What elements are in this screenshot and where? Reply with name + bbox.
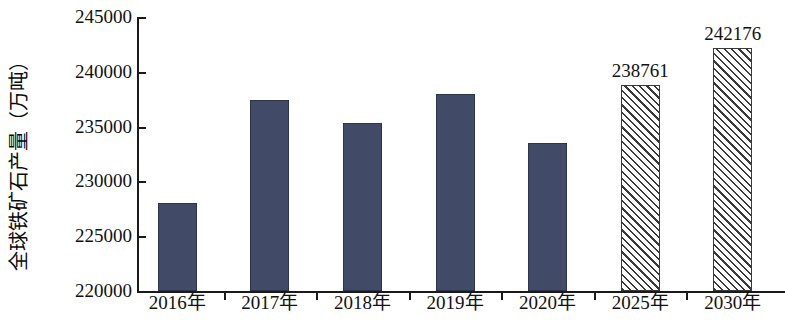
y-axis-tick-mark <box>137 181 146 183</box>
bar <box>158 203 197 291</box>
x-axis-tick-mark <box>316 291 318 300</box>
x-axis-tick-mark <box>501 291 503 300</box>
y-axis-tick-mark <box>137 291 146 293</box>
y-axis-tick-label: 245000 <box>48 7 132 26</box>
y-axis-tick-label: 230000 <box>48 171 132 190</box>
y-axis-tick-mark <box>137 236 146 238</box>
x-axis-tick-mark <box>594 291 596 300</box>
y-axis-line <box>137 17 139 291</box>
bar <box>436 94 475 291</box>
y-axis-title: 全球铁矿石产量（万吨） <box>6 6 32 316</box>
bar: 242176 <box>713 48 752 291</box>
y-axis-tick-label: 235000 <box>48 117 132 136</box>
x-axis-tick-label: 2025年 <box>612 292 669 314</box>
x-axis-tick-label: 2019年 <box>427 292 484 314</box>
y-axis-tick-label: 240000 <box>48 62 132 81</box>
x-axis-tick-label: 2030年 <box>704 292 761 314</box>
x-axis-tick-mark <box>224 291 226 300</box>
bar-value-label: 238761 <box>612 61 669 80</box>
y-axis-tick-label: 220000 <box>48 281 132 300</box>
y-axis-tick-mark <box>137 17 146 19</box>
plot-area: 238761242176 <box>137 17 785 291</box>
bar-chart: 全球铁矿石产量（万吨） 2450002400002350002300002250… <box>0 0 785 327</box>
x-axis-tick-label: 2016年 <box>149 292 206 314</box>
bar-value-label: 242176 <box>704 24 761 43</box>
x-axis-tick-mark <box>686 291 688 300</box>
x-axis-tick-label: 2017年 <box>241 292 298 314</box>
y-axis-tick-label: 225000 <box>48 226 132 245</box>
x-axis-tick-label: 2020年 <box>519 292 576 314</box>
y-axis-tick-mark <box>137 72 146 74</box>
bar <box>343 123 382 291</box>
x-axis-tick-label: 2018年 <box>334 292 391 314</box>
bar: 238761 <box>621 85 660 291</box>
y-axis-tick-mark <box>137 127 146 129</box>
bar <box>528 143 567 291</box>
x-axis-tick-mark <box>409 291 411 300</box>
bar <box>250 100 289 291</box>
y-axis-tick-labels: 245000240000235000230000225000220000 <box>44 0 132 327</box>
